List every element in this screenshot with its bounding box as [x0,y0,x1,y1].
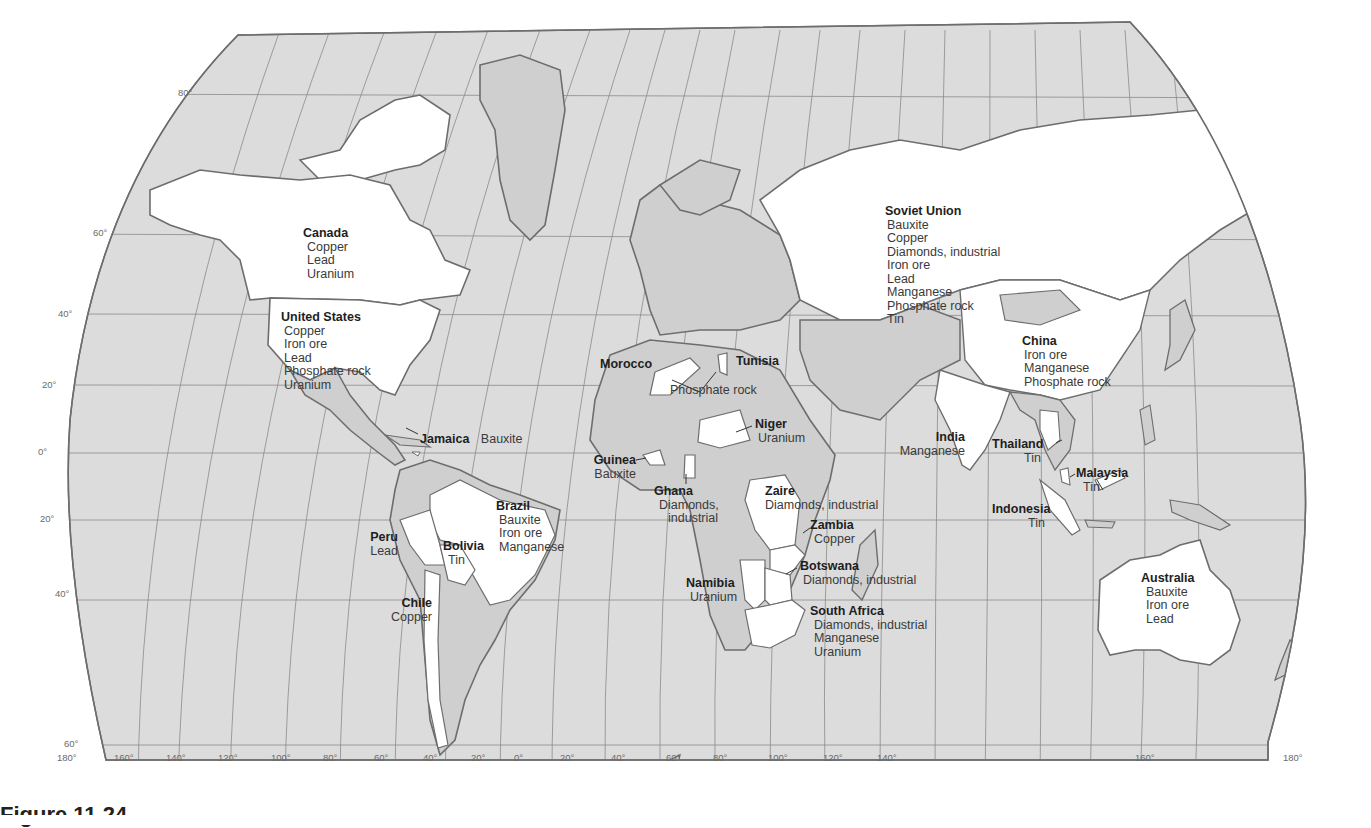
lon-label-80w: 80° [323,752,337,763]
lon-label-140w: 140° [166,752,186,763]
label-thailand: Thailand Tin [992,438,1043,465]
label-china: China Iron ore Manganese Phosphate rock [1022,335,1111,389]
label-morocco: Morocco [600,358,652,372]
label-ghana: Ghana Diamonds, industrial [654,485,719,526]
lon-label-180w: 180° [57,752,77,763]
lat-label-20s: 20° [40,513,54,524]
label-canada: Canada Copper Lead Uranium [303,227,354,281]
label-zambia: Zambia Copper [810,519,855,546]
lon-label-40w: 40° [423,752,437,763]
lon-label-120w: 120° [218,752,238,763]
label-south-africa: South Africa Diamonds, industrial Mangan… [810,605,927,659]
lon-label-160w: 160° [114,752,134,763]
lat-label-80n: 80° [178,87,192,98]
lat-label-20n: 20° [42,379,56,390]
lon-label-20e: 20° [560,752,574,763]
label-soviet-union: Soviet Union Bauxite Copper Diamonds, in… [885,205,1000,327]
label-zaire: Zaire Diamonds, industrial [765,485,878,512]
lon-label-40e: 40° [611,752,625,763]
lon-label-120e: 120° [823,752,843,763]
lat-label-40s: 40° [55,588,69,599]
label-india: India Manganese [880,431,965,458]
label-jamaica: Jamaica Bauxite [420,433,523,447]
label-tunisia: Tunisia [736,355,779,369]
caption-crop-mask [0,815,1371,825]
label-united-states: United States Copper Iron ore Lead Phosp… [281,311,371,392]
lon-label-160e: 160° [1135,752,1155,763]
label-malaysia: Malaysia Tin [1076,467,1128,494]
lon-label-100w: 100° [271,752,291,763]
lon-label-60e: 60° [666,752,680,763]
label-chile: Chile Copper [380,597,432,624]
label-namibia: Namibia Uranium [686,577,737,604]
lat-label-60n: 60° [93,227,107,238]
lon-label-0: 0° [514,752,523,763]
lat-label-60s: 60° [64,738,78,749]
lat-label-40n: 40° [58,308,72,319]
label-phosphate-rock-north-africa: Phosphate rock [670,384,757,398]
label-brazil: Brazil Bauxite Iron ore Manganese [496,500,564,554]
lon-label-80e: 80° [713,752,727,763]
lon-label-180e: 180° [1283,752,1303,763]
label-guinea: Guinea Bauxite [584,454,636,481]
label-indonesia: Indonesia Tin [992,503,1050,530]
label-botswana: Botswana Diamonds, industrial [800,560,916,587]
lat-label-0: 0° [38,446,47,457]
label-australia: Australia Bauxite Iron ore Lead [1141,572,1195,626]
lon-label-20w: 20° [471,752,485,763]
label-bolivia: Bolivia Tin [443,540,484,567]
lon-label-60w: 60° [374,752,388,763]
lon-label-140e: 140° [877,752,897,763]
label-niger: Niger Uranium [755,418,805,445]
lon-label-100e: 100° [768,752,788,763]
label-peru: Peru Lead [360,531,398,558]
